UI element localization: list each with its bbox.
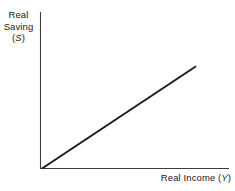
y-axis-label-line1: Real	[0, 9, 37, 21]
y-axis-paren-close: )	[22, 32, 25, 43]
y-axis-label: Real Saving (S)	[0, 9, 37, 44]
saving-function-line	[42, 66, 196, 168]
y-axis-label-line2: Saving	[0, 21, 37, 33]
x-axis-label: Real Income (Y)	[105, 172, 231, 184]
x-axis-paren-close: )	[228, 172, 231, 183]
saving-function-figure: Real Saving (S) Real Income (Y)	[0, 0, 235, 191]
x-axis-label-text: Real Income	[161, 172, 218, 183]
y-axis-label-symbol-line: (S)	[0, 32, 37, 44]
